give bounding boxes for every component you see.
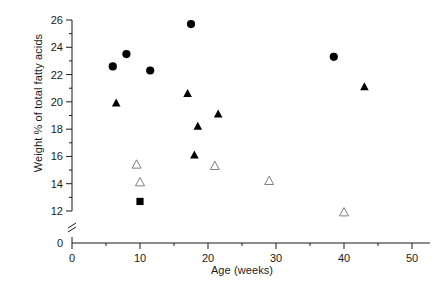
svg-text:40: 40 <box>338 252 350 264</box>
axis-break-icon <box>68 223 76 232</box>
svg-text:12: 12 <box>51 205 63 217</box>
data-point-filled-triangle <box>214 110 223 118</box>
data-point-filled-circle <box>330 53 338 61</box>
data-point-open-triangle <box>132 160 141 168</box>
svg-text:50: 50 <box>406 252 418 264</box>
data-point-filled-triangle <box>112 99 121 107</box>
svg-text:10: 10 <box>134 252 146 264</box>
data-point-filled-circle <box>146 66 154 74</box>
data-point-open-triangle <box>340 208 349 216</box>
tick-labels: 1214161820222426001020304050 <box>51 14 418 264</box>
svg-text:14: 14 <box>51 178 63 190</box>
tick-marks <box>66 20 412 249</box>
svg-text:30: 30 <box>270 252 282 264</box>
svg-text:22: 22 <box>51 69 63 81</box>
plot-area: 1214161820222426001020304050 <box>0 0 440 288</box>
svg-text:16: 16 <box>51 150 63 162</box>
data-point-open-triangle <box>265 176 274 184</box>
scatter-plot-figure: Weight % of total fatty acids Age (weeks… <box>0 0 440 288</box>
svg-text:18: 18 <box>51 123 63 135</box>
data-point-open-triangle <box>136 178 145 186</box>
svg-text:24: 24 <box>51 41 63 53</box>
svg-text:0: 0 <box>69 252 75 264</box>
svg-text:20: 20 <box>51 96 63 108</box>
data-point-filled-triangle <box>190 150 199 158</box>
data-point-filled-circle <box>109 62 117 70</box>
data-points <box>109 20 369 216</box>
svg-text:26: 26 <box>51 14 63 26</box>
data-point-filled-triangle <box>183 89 192 97</box>
svg-text:0: 0 <box>57 237 63 249</box>
data-point-filled-square <box>136 198 143 205</box>
data-point-filled-triangle <box>194 122 203 130</box>
data-point-open-triangle <box>210 161 219 169</box>
data-point-filled-circle <box>187 20 195 28</box>
data-point-filled-triangle <box>360 82 369 90</box>
data-point-filled-circle <box>122 50 130 58</box>
svg-text:20: 20 <box>202 252 214 264</box>
